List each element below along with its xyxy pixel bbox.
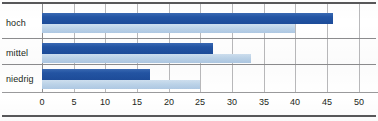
x-tick-label-40: 40 bbox=[283, 97, 307, 107]
category-label-mittel: mittel bbox=[6, 48, 28, 58]
x-tick-label-25: 25 bbox=[188, 97, 212, 107]
category-label-hoch: hoch bbox=[6, 18, 26, 28]
x-tick-label-20: 20 bbox=[157, 97, 181, 107]
bar-chart: hoch mittel niedrig 05101520253035404550 bbox=[0, 0, 378, 121]
category-separator bbox=[2, 38, 376, 39]
x-tick-label-0: 0 bbox=[30, 97, 54, 107]
bar-light-mittel bbox=[42, 54, 251, 63]
bar-dark-hoch bbox=[42, 13, 333, 24]
top-rule bbox=[2, 2, 376, 4]
bar-light-hoch bbox=[42, 24, 295, 33]
bar-dark-mittel bbox=[42, 43, 213, 54]
bar-dark-niedrig bbox=[42, 69, 150, 80]
gridline-50 bbox=[359, 4, 360, 92]
category-label-niedrig: niedrig bbox=[6, 74, 34, 84]
x-tick-label-35: 35 bbox=[252, 97, 276, 107]
x-tick-label-5: 5 bbox=[62, 97, 86, 107]
x-tick-label-15: 15 bbox=[125, 97, 149, 107]
x-axis-line bbox=[2, 92, 378, 93]
x-tick-label-10: 10 bbox=[93, 97, 117, 107]
x-tick-label-50: 50 bbox=[347, 97, 371, 107]
x-tick-label-45: 45 bbox=[315, 97, 339, 107]
x-tick-label-30: 30 bbox=[220, 97, 244, 107]
bottom-rule bbox=[2, 115, 376, 117]
bar-light-niedrig bbox=[42, 80, 200, 89]
category-separator bbox=[2, 64, 376, 65]
